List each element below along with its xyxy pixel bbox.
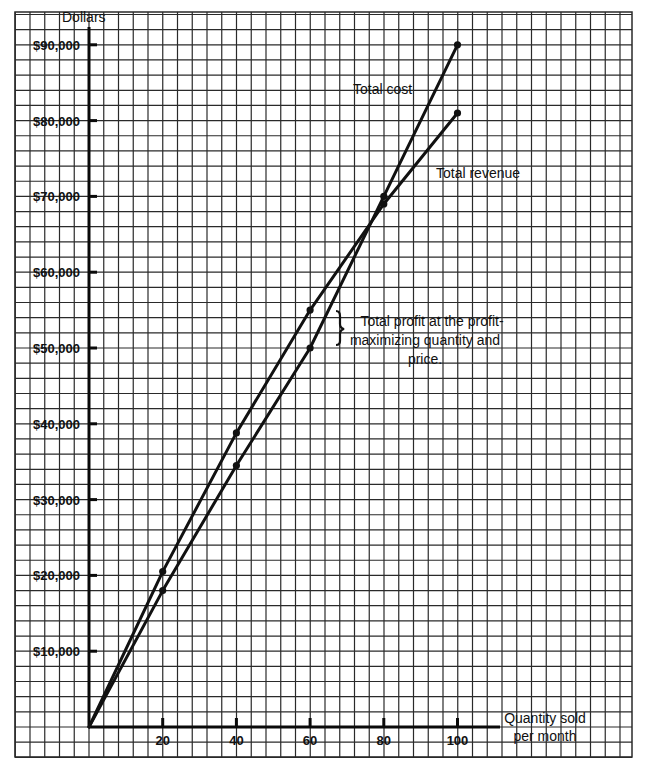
- data-point-total-cost: [307, 344, 314, 351]
- y-tick-label: $20,000: [33, 568, 80, 583]
- y-tick-label: $90,000: [33, 38, 80, 53]
- y-tick-label: $50,000: [33, 341, 80, 356]
- y-tick-label: $40,000: [33, 417, 80, 432]
- x-tick-label: 20: [155, 733, 169, 748]
- x-tick-label: 80: [377, 733, 391, 748]
- data-point-total-cost: [454, 41, 461, 48]
- x-axis-title-line-2: per month: [513, 728, 576, 744]
- y-tick-label: $70,000: [33, 189, 80, 204]
- data-point-total-revenue: [159, 568, 166, 575]
- data-point-total-cost: [233, 462, 240, 469]
- x-axis-title-line-1: Quantity sold: [504, 710, 586, 726]
- annotation-line-1: Total profit at the profit-: [360, 313, 504, 329]
- annotation-line-2: maximizing quantity and: [350, 332, 500, 348]
- data-point-total-revenue: [307, 307, 314, 314]
- data-point-total-revenue: [454, 109, 461, 116]
- data-point-total-cost: [159, 587, 166, 594]
- x-tick-label: 40: [229, 733, 243, 748]
- chart-canvas: $10,000$20,000$30,000$40,000$50,000$60,0…: [0, 0, 645, 766]
- y-tick-label: $10,000: [33, 644, 80, 659]
- annotation-line-3: price.: [408, 351, 442, 367]
- series-label-total-revenue: Total revenue: [436, 165, 520, 181]
- y-tick-label: $80,000: [33, 114, 80, 129]
- data-point-total-revenue: [380, 200, 387, 207]
- y-axis-title: Dollars: [62, 9, 106, 25]
- data-point-total-revenue: [233, 429, 240, 436]
- y-tick-label: $60,000: [33, 265, 80, 280]
- series-label-total-cost: Total cost: [353, 81, 412, 97]
- y-tick-label: $30,000: [33, 493, 80, 508]
- x-tick-label: 60: [303, 733, 317, 748]
- x-tick-label: 100: [447, 733, 469, 748]
